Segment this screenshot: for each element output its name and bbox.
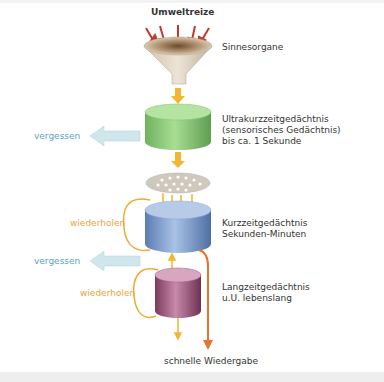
memory-model-graphic (0, 0, 384, 382)
quick-recall-label: schnelle Wiedergabe (164, 356, 258, 367)
short-term-memory-cylinder (145, 201, 211, 253)
funnel-icon (144, 37, 212, 84)
sense-organs-label: Sinnesorgane (222, 42, 283, 53)
sensory-memory-label: Ultrakurzzeitgedächtnis (sensorisches Ge… (222, 114, 341, 147)
rehearse-label-2: wiederholen (80, 288, 135, 299)
sensory-memory-cylinder (145, 104, 211, 150)
forget-arrow-2 (90, 251, 140, 271)
rehearse-label-1: wiederholen (70, 218, 125, 229)
forget-arrow-1 (90, 126, 140, 146)
forget-label-2: vergessen (34, 256, 80, 267)
long-term-memory-cylinder (155, 268, 201, 318)
stimuli-title: Umweltreize (151, 7, 214, 18)
short-term-memory-label: Kurzzeitgedächtnis Sekunden-Minuten (222, 218, 307, 240)
forget-label-1: vergessen (34, 131, 80, 142)
rehearsal-loop-2 (134, 269, 158, 318)
bottom-band (0, 372, 384, 382)
filter-disc (146, 173, 210, 193)
long-term-memory-label: Langzeitgedächtnis u.U. lebenslang (222, 282, 310, 304)
